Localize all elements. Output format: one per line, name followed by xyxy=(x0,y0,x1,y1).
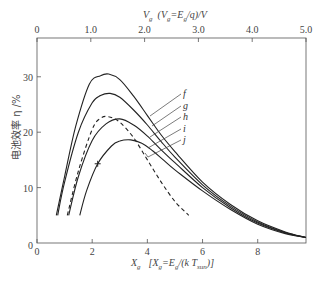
annotation-markers xyxy=(95,161,101,167)
curve-h xyxy=(69,119,306,238)
bottom-axis-title: Xg[Xg=Eg/(k Tsun)] xyxy=(130,257,214,271)
x2-tick-label: 5.0 xyxy=(300,24,313,35)
efficiency-chart: 02468 01.02.03.04.05.0 0102030 Vg(Vg=Eg/… xyxy=(0,0,320,281)
series-label-j: j xyxy=(181,134,186,145)
curve-g xyxy=(58,93,306,237)
curve-f xyxy=(56,74,306,238)
y-axis-title: 电池效率 η /% xyxy=(10,94,22,160)
y-tick-label: 10 xyxy=(23,183,33,194)
series-labels: fghij xyxy=(181,88,188,145)
y-tick-label: 0 xyxy=(28,240,33,251)
y-axis-left: 0102030 xyxy=(23,72,41,251)
x-axis-top: 01.02.03.04.05.0 xyxy=(35,24,313,42)
leader-j xyxy=(148,140,181,157)
leader-h xyxy=(150,117,181,137)
curves xyxy=(56,74,306,238)
series-label-h: h xyxy=(183,111,188,122)
x2-tick-label: 1.0 xyxy=(85,24,98,35)
series-label-i: i xyxy=(183,123,186,134)
x-tick-label: 0 xyxy=(35,246,40,257)
x2-tick-label: 2.0 xyxy=(138,24,151,35)
x-tick-label: 6 xyxy=(200,246,205,257)
leader-hook xyxy=(145,153,148,157)
series-label-g: g xyxy=(183,100,188,111)
x2-tick-label: 0 xyxy=(35,24,40,35)
plot-frame xyxy=(37,38,306,243)
x2-tick-label: 4.0 xyxy=(246,24,259,35)
series-leaders xyxy=(145,94,181,157)
leader-f xyxy=(150,94,181,116)
y-tick-label: 30 xyxy=(23,72,33,83)
curve-j xyxy=(80,140,306,238)
leader-g xyxy=(152,106,181,126)
x-tick-label: 4 xyxy=(145,246,150,257)
x-tick-label: 2 xyxy=(90,246,95,257)
y-tick-label: 20 xyxy=(23,127,33,138)
x2-tick-label: 3.0 xyxy=(192,24,205,35)
x-axis-bottom: 02468 xyxy=(35,239,261,257)
top-axis-title: Vg(Vg=Eg/q)/V xyxy=(143,9,209,23)
x-tick-label: 8 xyxy=(255,246,260,257)
series-label-f: f xyxy=(183,88,187,99)
